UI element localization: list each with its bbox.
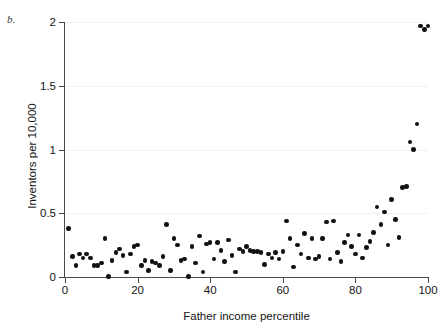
data-point <box>233 270 238 275</box>
x-axis-line <box>64 277 429 278</box>
y-tick-label: 1.5 <box>40 80 56 92</box>
data-point <box>66 226 71 231</box>
x-tick-mark <box>210 278 211 283</box>
data-point <box>164 222 169 227</box>
data-point <box>393 217 398 222</box>
data-point <box>335 250 340 255</box>
data-point <box>219 248 224 253</box>
data-point <box>262 262 267 267</box>
data-point <box>342 240 347 245</box>
data-point <box>270 256 275 261</box>
y-tick-label: 0 <box>50 271 56 283</box>
data-point <box>241 249 246 254</box>
x-axis-title: Father income percentile <box>65 310 428 322</box>
panel-letter: b. <box>7 13 16 25</box>
data-point <box>346 233 351 238</box>
y-tick-label: 0.5 <box>40 207 56 219</box>
data-point <box>389 197 394 202</box>
data-point <box>349 244 354 249</box>
data-point <box>379 222 384 227</box>
scatter-plot-figure: b. Inventors per 10,000 Father income pe… <box>0 0 446 332</box>
data-point <box>259 250 264 255</box>
data-point <box>197 234 202 239</box>
data-point <box>99 261 104 266</box>
data-point <box>331 219 336 224</box>
x-tick-label: 0 <box>62 284 68 296</box>
data-point <box>135 243 140 248</box>
data-point <box>375 205 380 210</box>
x-tick-mark <box>428 278 429 283</box>
data-point <box>114 250 119 255</box>
y-tick-mark <box>59 150 64 151</box>
y-axis-title: Inventors per 10,000 <box>26 71 38 241</box>
x-tick-mark <box>138 278 139 283</box>
x-tick-label: 80 <box>349 284 362 296</box>
data-point <box>368 239 373 244</box>
data-point <box>426 24 431 29</box>
data-point <box>281 249 286 254</box>
data-point <box>186 274 191 279</box>
plot-frame: 00.511.52 020406080100 <box>65 22 428 277</box>
data-point <box>212 257 217 262</box>
data-point <box>306 256 311 261</box>
data-point <box>106 274 111 279</box>
data-point <box>397 235 402 240</box>
x-tick-mark <box>65 278 66 283</box>
x-tick-mark <box>283 278 284 283</box>
data-point <box>408 140 413 145</box>
data-point <box>201 270 206 275</box>
data-point <box>299 252 304 257</box>
data-point <box>143 258 148 263</box>
data-point <box>172 236 177 241</box>
data-point <box>124 270 129 275</box>
x-tick-mark <box>355 278 356 283</box>
data-point <box>317 254 322 259</box>
data-point <box>81 256 86 261</box>
data-point <box>190 244 195 249</box>
gridline <box>65 150 428 151</box>
gridline <box>65 86 428 87</box>
data-point <box>157 263 162 268</box>
x-tick-label: 40 <box>204 284 217 296</box>
data-point <box>382 210 387 215</box>
data-point <box>357 233 362 238</box>
data-point <box>320 236 325 241</box>
plot-area: 00.511.52 020406080100 <box>65 22 428 277</box>
data-point <box>422 27 427 32</box>
y-tick-label: 1 <box>50 144 56 156</box>
data-point <box>70 254 75 259</box>
data-point <box>230 253 235 258</box>
data-point <box>302 231 307 236</box>
data-point <box>324 220 329 225</box>
y-tick-mark <box>59 22 64 23</box>
data-point <box>273 250 278 255</box>
data-point <box>339 259 344 264</box>
x-tick-label: 100 <box>418 284 437 296</box>
y-tick-mark <box>59 86 64 87</box>
data-point <box>110 258 115 263</box>
data-point <box>117 247 122 252</box>
data-point <box>328 257 333 262</box>
data-point <box>386 243 391 248</box>
data-point <box>146 268 151 273</box>
data-point <box>288 236 293 241</box>
data-point <box>291 265 296 270</box>
data-point <box>208 240 213 245</box>
data-point <box>295 243 300 248</box>
data-point <box>139 263 144 268</box>
data-point <box>310 236 315 241</box>
data-point <box>103 236 108 241</box>
data-point <box>284 219 289 224</box>
y-tick-mark <box>59 213 64 214</box>
data-point <box>182 257 187 262</box>
data-point <box>353 252 358 257</box>
data-point <box>168 268 173 273</box>
data-point <box>193 261 198 266</box>
data-point <box>415 122 420 127</box>
data-point <box>226 238 231 243</box>
y-tick-mark <box>59 277 64 278</box>
data-point <box>121 253 126 258</box>
data-point <box>364 245 369 250</box>
data-point <box>128 252 133 257</box>
data-point <box>215 240 220 245</box>
